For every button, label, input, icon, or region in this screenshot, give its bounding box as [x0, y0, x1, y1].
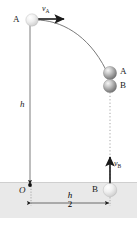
fraction-denominator: 2	[60, 200, 80, 209]
label-origin: O	[19, 186, 26, 195]
ball-b-collision	[103, 79, 116, 92]
label-distance-fraction: h 2	[60, 191, 80, 209]
ball-b-start	[103, 183, 117, 197]
label-ball-b-start: B	[92, 185, 98, 194]
label-ball-a-collision: A	[120, 67, 127, 76]
label-ball-b-collision: B	[120, 81, 126, 90]
label-ball-a-start: A	[13, 15, 20, 24]
ball-a-collision	[103, 66, 116, 79]
projectile-collision-figure: A vA h A B vB B O h 2	[0, 0, 137, 226]
ball-a-trajectory	[36, 20, 106, 70]
origin-marker	[28, 183, 32, 187]
label-velocity-a: vA	[42, 5, 50, 13]
label-height-h: h	[20, 100, 25, 109]
label-velocity-b: vB	[114, 160, 121, 168]
ball-a-start	[26, 14, 38, 26]
